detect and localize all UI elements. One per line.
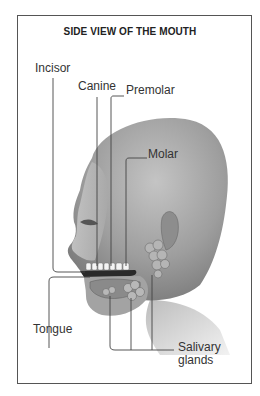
- label-molar: Molar: [148, 148, 178, 161]
- label-salivary-line2: glands: [178, 354, 213, 367]
- diagram-title: SIDE VIEW OF THE MOUTH: [0, 26, 260, 37]
- label-tongue: Tongue: [33, 323, 72, 336]
- head-illustration: [0, 0, 260, 396]
- label-premolar: Premolar: [126, 84, 175, 97]
- mouth-opening: [80, 270, 136, 277]
- tongue-line: [49, 277, 90, 348]
- label-incisor: Incisor: [35, 62, 70, 75]
- label-canine: Canine: [78, 80, 116, 93]
